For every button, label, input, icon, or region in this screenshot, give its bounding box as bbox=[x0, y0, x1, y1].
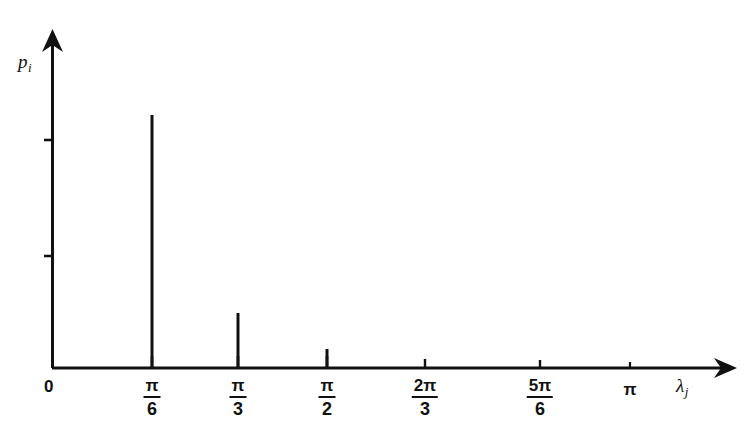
impulse-spikes bbox=[152, 115, 327, 368]
fraction-numerator: 2π bbox=[412, 377, 438, 395]
fraction-numerator: π bbox=[318, 377, 335, 395]
y-axis-label-symbol: p bbox=[18, 51, 28, 72]
fraction-numerator: π bbox=[143, 377, 160, 395]
fraction: π 3 bbox=[229, 377, 246, 418]
x-tick-label-pi-over-3: π 3 bbox=[229, 377, 246, 418]
x-tick-label-pi-over-6: π 6 bbox=[143, 377, 160, 418]
x-axis bbox=[52, 358, 737, 378]
fraction: 5π 6 bbox=[527, 377, 553, 418]
fraction-denominator: 2 bbox=[318, 399, 335, 418]
fraction-numerator: 5π bbox=[527, 377, 553, 395]
plot-canvas bbox=[0, 0, 750, 435]
y-axis-label: pi bbox=[18, 52, 32, 74]
fraction: π 6 bbox=[143, 377, 160, 418]
fraction: 2π 3 bbox=[412, 377, 438, 418]
x-tick-label-pi-over-2: π 2 bbox=[318, 377, 335, 418]
fraction-bar bbox=[143, 396, 160, 398]
fraction-bar bbox=[229, 396, 246, 398]
fraction-bar bbox=[527, 396, 553, 398]
x-axis-label-subscript: j bbox=[685, 384, 689, 399]
fraction-denominator: 6 bbox=[527, 399, 553, 418]
x-tick-label-5pi-over-6: 5π 6 bbox=[527, 377, 553, 418]
x-axis-label-symbol: λ bbox=[676, 375, 684, 396]
fraction-bar bbox=[412, 396, 438, 398]
fraction-denominator: 3 bbox=[229, 399, 246, 418]
x-tick-label-pi: π bbox=[623, 381, 636, 398]
fraction-denominator: 6 bbox=[143, 399, 160, 418]
y-axis-label-subscript: i bbox=[28, 60, 32, 75]
fraction: π 2 bbox=[318, 377, 335, 418]
spectrum-figure: pi λj 0 π 6 π 3 π 2 2π 3 bbox=[0, 0, 750, 435]
fraction-denominator: 3 bbox=[412, 399, 438, 418]
y-axis bbox=[42, 29, 63, 368]
fraction-numerator: π bbox=[229, 377, 246, 395]
x-tick-label-zero: 0 bbox=[44, 378, 53, 395]
x-tick-label-2pi-over-3: 2π 3 bbox=[412, 377, 438, 418]
fraction-bar bbox=[318, 396, 335, 398]
x-axis-label: λj bbox=[676, 376, 688, 398]
x-axis-ticks bbox=[152, 356, 630, 368]
